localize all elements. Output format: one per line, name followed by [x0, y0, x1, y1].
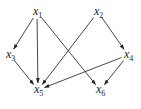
dag-diagram: x1x2x3x4x5x6	[0, 0, 141, 109]
edge-x4-x5	[45, 58, 122, 88]
node-x1: x1	[32, 4, 42, 20]
node-x6: x6	[95, 82, 105, 98]
node-label-subscript: 4	[129, 54, 133, 63]
edge-x2-x4	[102, 18, 124, 50]
edge-x1-x5	[37, 19, 38, 83]
node-x5: x5	[33, 82, 43, 98]
node-label-subscript: 1	[38, 11, 42, 20]
edge-x3-x5	[14, 61, 33, 85]
node-x4: x4	[123, 47, 133, 63]
node-label-subscript: 3	[11, 54, 15, 63]
nodes-group: x1x2x3x4x5x6	[5, 4, 133, 98]
node-x3: x3	[5, 47, 15, 63]
node-label-subscript: 5	[39, 89, 43, 98]
node-label-subscript: 6	[101, 89, 105, 98]
edge-x4-x6	[104, 61, 123, 85]
edges-group	[14, 17, 124, 87]
node-x2: x2	[93, 4, 103, 20]
node-label-subscript: 2	[99, 11, 103, 20]
edge-x1-x3	[14, 18, 34, 49]
